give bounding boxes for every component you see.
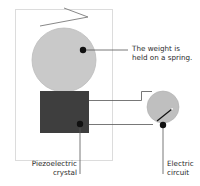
electric-circuit-meter [147, 91, 179, 123]
circuit-pointer-dot [160, 122, 166, 128]
weight-ball [32, 28, 96, 92]
crystal-pointer-dot [77, 121, 83, 127]
crystal-label: Piezoelectric crystal [22, 160, 77, 177]
circuit-label-line2: circuit [167, 169, 194, 178]
weight-pointer-dot [80, 47, 86, 53]
weight-label-line2: held on a spring. [132, 54, 192, 63]
weight-label: The weight is held on a spring. [132, 45, 192, 62]
circuit-label: Electric circuit [167, 160, 194, 177]
crystal-label-line2: crystal [22, 169, 77, 178]
needle-tip [171, 108, 173, 110]
